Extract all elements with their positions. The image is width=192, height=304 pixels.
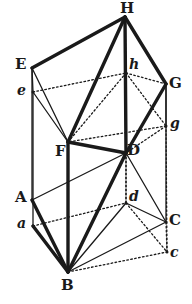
vertex-label-C: C	[169, 213, 181, 228]
vertex-label-G: G	[169, 76, 182, 91]
vertex-point-e	[32, 91, 35, 94]
vertex-label-e: e	[17, 83, 26, 97]
edge-layer	[32, 17, 167, 272]
edge-F-D	[68, 142, 126, 153]
edge-g-F	[68, 126, 166, 142]
edge-B-C	[68, 222, 166, 272]
vertex-point-g	[165, 125, 168, 128]
vertex-label-F: F	[55, 144, 66, 159]
vertex-point-E	[31, 67, 34, 70]
vertex-point-G	[165, 83, 168, 86]
vertex-label-D: D	[127, 143, 140, 158]
edge-E-F	[32, 68, 68, 142]
edge-e-F	[33, 92, 68, 142]
vertex-point-A	[31, 199, 34, 202]
vertex-label-E: E	[15, 57, 26, 72]
vertex-label-a: a	[17, 216, 26, 230]
vertex-label-B: B	[61, 278, 74, 293]
edge-d-c	[126, 203, 167, 252]
figure-canvas	[0, 0, 192, 304]
vertex-point-C	[165, 221, 168, 224]
edge-E-H	[32, 17, 125, 68]
edge-A-B	[32, 200, 68, 272]
vertex-point-B	[67, 271, 70, 274]
vertex-point-a	[32, 225, 35, 228]
geometry-figure: HEehGgFDdAaCcB	[0, 0, 192, 304]
edge-a-d	[33, 203, 126, 226]
edge-a-B	[33, 226, 68, 272]
vertex-label-A: A	[15, 190, 27, 205]
vertex-label-H: H	[120, 1, 134, 16]
vertex-label-d: d	[129, 189, 139, 203]
vertex-label-h: h	[129, 57, 139, 71]
vertex-label-g: g	[170, 116, 180, 130]
vertex-point-F	[67, 141, 70, 144]
vertex-point-h	[125, 72, 128, 75]
vertex-label-c: c	[170, 245, 179, 259]
edge-A-D	[32, 153, 126, 200]
vertex-point-d	[125, 202, 128, 205]
vertex-point-c	[166, 251, 169, 254]
